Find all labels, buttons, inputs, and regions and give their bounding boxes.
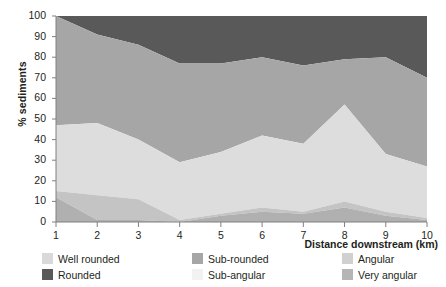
legend-label-well-rounded: Well rounded: [58, 253, 120, 265]
legend-swatch-angular: [342, 253, 353, 264]
y-tick-marks: [52, 16, 56, 222]
x-tick-label: 3: [128, 230, 148, 241]
x-axis-title: Distance downstream (km): [304, 238, 438, 250]
y-tick-label: 10: [20, 195, 46, 206]
x-tick-label: 1: [46, 230, 66, 241]
y-tick-label: 40: [20, 134, 46, 145]
x-tick-label: 2: [87, 230, 107, 241]
legend-label-sub-rounded: Sub-rounded: [208, 253, 269, 265]
x-tick-label: 4: [170, 230, 190, 241]
legend-label-sub-angular: Sub-angular: [208, 269, 265, 281]
legend-label-very-angular: Very angular: [358, 269, 417, 281]
legend-label-rounded: Rounded: [58, 269, 101, 281]
y-tick-label: 20: [20, 175, 46, 186]
y-tick-label: 90: [20, 31, 46, 42]
legend-swatch-well-rounded: [42, 253, 53, 264]
legend-item-very-angular: Very angular: [342, 267, 417, 282]
chart-canvas: [0, 0, 446, 232]
legend-swatch-sub-angular: [192, 269, 203, 280]
legend-item-well-rounded: Well rounded: [42, 251, 120, 266]
area-bands: [56, 16, 427, 222]
legend-item-sub-rounded: Sub-rounded: [192, 251, 269, 266]
y-tick-label: 50: [20, 113, 46, 124]
y-tick-label: 100: [20, 10, 46, 21]
legend-label-angular: Angular: [358, 253, 394, 265]
legend-item-rounded: Rounded: [42, 267, 101, 282]
legend-swatch-rounded: [42, 269, 53, 280]
legend-swatch-sub-rounded: [192, 253, 203, 264]
y-tick-label: 0: [20, 216, 46, 227]
x-tick-marks: [56, 222, 427, 227]
x-tick-label: 5: [211, 230, 231, 241]
y-tick-label: 80: [20, 51, 46, 62]
y-tick-label: 60: [20, 92, 46, 103]
x-tick-label: 6: [252, 230, 272, 241]
y-tick-label: 70: [20, 72, 46, 83]
legend-swatch-very-angular: [342, 269, 353, 280]
legend-item-sub-angular: Sub-angular: [192, 267, 265, 282]
chart-legend: Well rounded Rounded Sub-rounded Sub-ang…: [0, 251, 446, 287]
y-tick-label: 30: [20, 154, 46, 165]
legend-item-angular: Angular: [342, 251, 394, 266]
plot-area: % sediments 0102030405060708090100 12345…: [0, 0, 446, 232]
stacked-area-chart-figure: % sediments 0102030405060708090100 12345…: [0, 0, 446, 287]
